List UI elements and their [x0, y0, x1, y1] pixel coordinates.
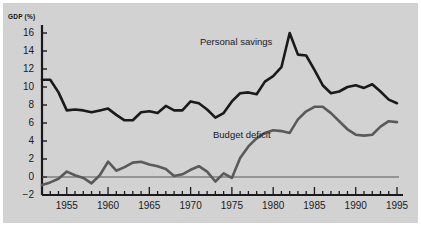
- series-annotation: Budget deficit: [213, 129, 271, 140]
- x-tick-label: 1980: [253, 200, 293, 211]
- y-tick-label: 12: [12, 63, 34, 74]
- y-tick-label: 16: [12, 27, 34, 38]
- y-tick-label: 14: [12, 45, 34, 56]
- y-tick-label: 4: [12, 135, 34, 146]
- series-line-budget-deficit: [42, 107, 397, 185]
- x-tick-label: 1965: [129, 200, 169, 211]
- y-tick-label: 6: [12, 117, 34, 128]
- y-tick-label: 2: [12, 153, 34, 164]
- x-tick-label: 1955: [47, 200, 87, 211]
- x-tick-label: 1960: [88, 200, 128, 211]
- x-tick-label: 1970: [171, 200, 211, 211]
- chart-plate: GDP (%) −2024681012141619551960196519701…: [3, 3, 418, 223]
- x-tick-label: 1995: [377, 200, 417, 211]
- x-tick-label: 1985: [294, 200, 334, 211]
- x-tick-label: 1975: [212, 200, 252, 211]
- x-tick-label: 1990: [336, 200, 376, 211]
- y-tick-label: 8: [12, 99, 34, 110]
- chart-frame: GDP (%) −2024681012141619551960196519701…: [0, 0, 421, 226]
- y-tick-label: 10: [12, 81, 34, 92]
- series-annotation: Personal savings: [200, 36, 272, 47]
- y-tick-label: 0: [12, 171, 34, 182]
- y-tick-label: −2: [12, 189, 34, 200]
